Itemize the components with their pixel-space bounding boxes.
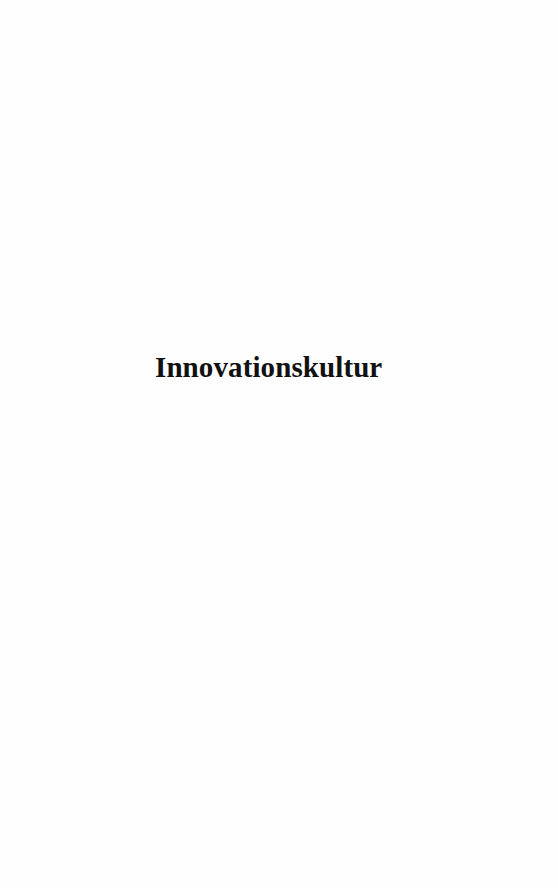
book-page: Innovationskultur: [0, 0, 558, 888]
half-title: Innovationskultur: [155, 349, 382, 385]
